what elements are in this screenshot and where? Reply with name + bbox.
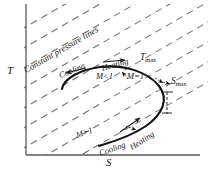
s-max-subscript: max: [176, 80, 187, 87]
lower-branch-arrows: [120, 118, 140, 132]
heating-arrow-lower: [120, 118, 140, 132]
rayleigh-ts-diagram: T S Constant pressure lines Cooling Heat…: [0, 0, 208, 179]
t-max-subscript: max: [145, 56, 156, 63]
s-max-leader: [163, 82, 170, 84]
t-max-label: Tmax: [140, 52, 156, 62]
mach-sonic-label: M=1: [127, 71, 144, 81]
s-max-label: Smax: [171, 76, 186, 86]
temperature-axis-label: T: [7, 64, 13, 76]
mach-subsonic-label: M<1: [96, 71, 113, 81]
entropy-axis-label: S: [106, 156, 112, 168]
